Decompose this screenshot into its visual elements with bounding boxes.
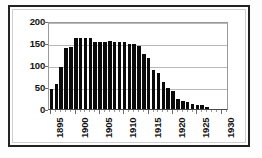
x-tick-label: 1900 bbox=[79, 118, 90, 138]
x-minor-tick bbox=[114, 110, 115, 112]
x-tick-label: 1910 bbox=[127, 118, 138, 138]
x-tick-label: 1895 bbox=[54, 118, 65, 138]
x-minor-tick bbox=[138, 110, 139, 112]
x-minor-tick bbox=[133, 110, 134, 112]
x-axis: 18951900190519101915192019251930 bbox=[0, 0, 262, 158]
x-minor-tick bbox=[84, 110, 85, 112]
x-minor-tick bbox=[187, 110, 188, 112]
x-tick-label: 1915 bbox=[152, 118, 163, 138]
x-minor-tick bbox=[226, 110, 227, 112]
x-minor-tick bbox=[80, 110, 81, 112]
x-minor-tick bbox=[206, 110, 207, 112]
x-minor-tick bbox=[216, 110, 217, 112]
x-minor-tick bbox=[94, 110, 95, 112]
x-minor-tick bbox=[192, 110, 193, 112]
x-tick-mark bbox=[196, 110, 197, 114]
x-tick-mark bbox=[75, 110, 76, 114]
x-minor-tick bbox=[128, 110, 129, 112]
x-tick-mark bbox=[99, 110, 100, 114]
x-tick-mark bbox=[172, 110, 173, 114]
x-tick-mark bbox=[221, 110, 222, 114]
x-minor-tick bbox=[211, 110, 212, 112]
x-minor-tick bbox=[60, 110, 61, 112]
x-minor-tick bbox=[153, 110, 154, 112]
x-minor-tick bbox=[177, 110, 178, 112]
x-minor-tick bbox=[104, 110, 105, 112]
x-tick-mark bbox=[50, 110, 51, 114]
x-minor-tick bbox=[89, 110, 90, 112]
x-tick-mark bbox=[148, 110, 149, 114]
x-tick-label: 1905 bbox=[103, 118, 114, 138]
x-tick-label: 1925 bbox=[200, 118, 211, 138]
x-minor-tick bbox=[70, 110, 71, 112]
x-tick-label: 1920 bbox=[176, 118, 187, 138]
x-minor-tick bbox=[182, 110, 183, 112]
x-minor-tick bbox=[109, 110, 110, 112]
x-minor-tick bbox=[167, 110, 168, 112]
x-minor-tick bbox=[65, 110, 66, 112]
x-minor-tick bbox=[157, 110, 158, 112]
x-minor-tick bbox=[162, 110, 163, 112]
x-tick-mark bbox=[123, 110, 124, 114]
x-minor-tick bbox=[55, 110, 56, 112]
x-minor-tick bbox=[143, 110, 144, 112]
chart-figure: 050100150200 189519001905191019151920192… bbox=[0, 0, 262, 158]
x-minor-tick bbox=[201, 110, 202, 112]
x-tick-label: 1930 bbox=[225, 118, 236, 138]
x-minor-tick bbox=[119, 110, 120, 112]
